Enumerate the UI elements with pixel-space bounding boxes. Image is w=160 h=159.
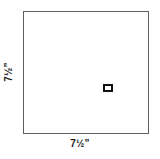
height-dimension-unit-mark: ” — [3, 62, 14, 67]
width-dimension-label: 7½” — [0, 139, 160, 149]
width-dimension-unit-mark: ” — [85, 138, 90, 149]
width-dimension-fraction: ½ — [76, 138, 85, 149]
square-panel-outline — [23, 11, 149, 134]
center-cutout-rectangle — [103, 84, 113, 92]
height-dimension-label: 7½” — [4, 49, 14, 95]
height-dimension-whole-number: 7 — [3, 76, 14, 82]
height-dimension-fraction: ½ — [3, 67, 14, 76]
dimension-diagram: 7½” 7½” — [0, 0, 160, 159]
